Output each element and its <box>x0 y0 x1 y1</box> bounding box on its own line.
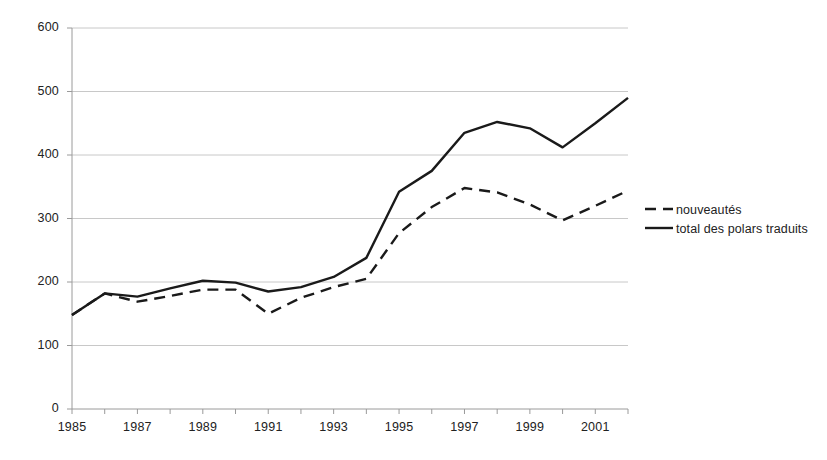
y-axis-tick-label: 200 <box>19 274 59 288</box>
legend-item-total-label: total des polars traduits <box>676 222 808 236</box>
y-axis-tick-label: 300 <box>19 211 59 225</box>
y-axis-tick-label: 500 <box>19 84 59 98</box>
x-axis-tick-label: 1995 <box>371 420 427 434</box>
x-axis-tick-label: 1993 <box>306 420 362 434</box>
x-axis-tick-label: 1985 <box>44 420 100 434</box>
x-axis-ticks <box>72 409 628 414</box>
legend-item-nouveautes-label: nouveautés <box>676 203 742 217</box>
x-axis-tick-label: 1989 <box>175 420 231 434</box>
y-axis-tick-label: 100 <box>19 338 59 352</box>
y-axis-tick-label: 0 <box>19 401 59 415</box>
y-axis-tick-label: 600 <box>19 20 59 34</box>
legend-markers <box>645 209 673 228</box>
x-axis-tick-label: 1991 <box>240 420 296 434</box>
series-line-nouveautes <box>72 188 628 315</box>
x-axis-tick-label: 1999 <box>502 420 558 434</box>
x-axis-tick-label: 1997 <box>436 420 492 434</box>
x-axis-tick-label: 1987 <box>109 420 165 434</box>
x-axis-tick-label: 2001 <box>567 420 623 434</box>
y-axis-ticks <box>67 28 72 409</box>
y-axis-tick-label: 400 <box>19 147 59 161</box>
line-chart: 0100200300400500600 19851987198919911993… <box>0 0 827 460</box>
